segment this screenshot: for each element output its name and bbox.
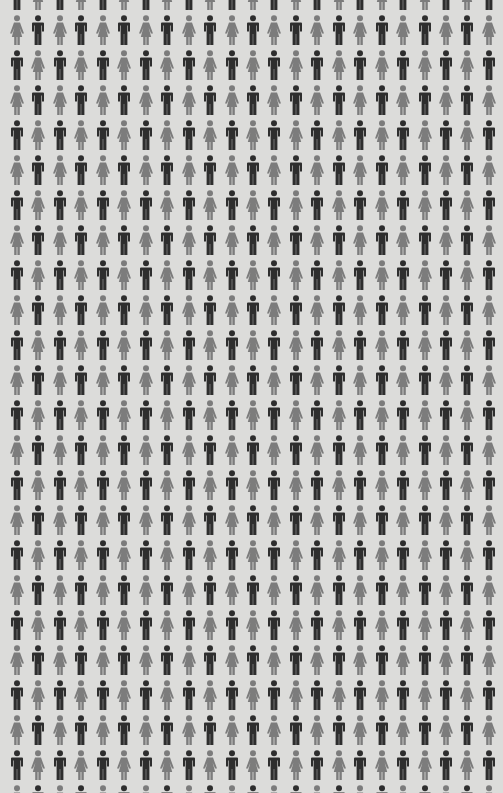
- female-person-icon: [417, 750, 433, 782]
- male-person-icon: [481, 330, 497, 362]
- male-person-icon: [159, 155, 175, 187]
- male-person-icon: [52, 330, 68, 362]
- male-person-icon: [116, 365, 132, 397]
- male-person-icon: [9, 400, 25, 432]
- female-person-icon: [266, 575, 282, 607]
- male-person-icon: [73, 365, 89, 397]
- male-person-icon: [481, 680, 497, 712]
- male-person-icon: [95, 750, 111, 782]
- female-person-icon: [459, 400, 475, 432]
- male-person-icon: [374, 575, 390, 607]
- male-person-icon: [9, 470, 25, 502]
- male-person-icon: [9, 330, 25, 362]
- male-person-icon: [138, 50, 154, 82]
- female-person-icon: [9, 785, 25, 793]
- female-person-icon: [52, 575, 68, 607]
- female-person-icon: [352, 225, 368, 257]
- female-person-icon: [138, 715, 154, 747]
- female-person-icon: [30, 470, 46, 502]
- female-person-icon: [245, 400, 261, 432]
- female-person-icon: [395, 155, 411, 187]
- male-person-icon: [202, 785, 218, 793]
- male-person-icon: [245, 575, 261, 607]
- female-person-icon: [395, 645, 411, 677]
- female-person-icon: [159, 190, 175, 222]
- male-person-icon: [159, 15, 175, 47]
- female-person-icon: [331, 120, 347, 152]
- female-person-icon: [9, 365, 25, 397]
- female-person-icon: [245, 260, 261, 292]
- female-person-icon: [202, 610, 218, 642]
- male-person-icon: [202, 295, 218, 327]
- female-person-icon: [245, 540, 261, 572]
- male-person-icon: [138, 260, 154, 292]
- male-person-icon: [459, 225, 475, 257]
- male-person-icon: [459, 505, 475, 537]
- female-person-icon: [288, 50, 304, 82]
- female-person-icon: [395, 225, 411, 257]
- male-person-icon: [159, 645, 175, 677]
- female-person-icon: [459, 750, 475, 782]
- male-person-icon: [202, 645, 218, 677]
- male-person-icon: [459, 435, 475, 467]
- male-person-icon: [438, 120, 454, 152]
- male-person-icon: [374, 225, 390, 257]
- female-person-icon: [9, 155, 25, 187]
- male-person-icon: [224, 0, 240, 12]
- male-person-icon: [438, 610, 454, 642]
- female-person-icon: [224, 785, 240, 793]
- female-person-icon: [309, 225, 325, 257]
- female-person-icon: [309, 155, 325, 187]
- male-person-icon: [52, 260, 68, 292]
- male-person-icon: [374, 435, 390, 467]
- female-person-icon: [309, 15, 325, 47]
- female-person-icon: [30, 120, 46, 152]
- male-person-icon: [331, 365, 347, 397]
- female-person-icon: [52, 225, 68, 257]
- male-person-icon: [309, 260, 325, 292]
- female-person-icon: [73, 0, 89, 12]
- male-person-icon: [395, 470, 411, 502]
- male-person-icon: [352, 400, 368, 432]
- female-person-icon: [30, 260, 46, 292]
- female-person-icon: [52, 15, 68, 47]
- female-person-icon: [245, 680, 261, 712]
- female-person-icon: [309, 365, 325, 397]
- male-person-icon: [374, 785, 390, 793]
- female-person-icon: [159, 120, 175, 152]
- male-person-icon: [438, 190, 454, 222]
- male-person-icon: [202, 505, 218, 537]
- female-person-icon: [52, 295, 68, 327]
- female-person-icon: [52, 505, 68, 537]
- male-person-icon: [9, 610, 25, 642]
- female-person-icon: [202, 190, 218, 222]
- male-person-icon: [288, 575, 304, 607]
- male-person-icon: [438, 260, 454, 292]
- female-person-icon: [73, 330, 89, 362]
- female-person-icon: [181, 785, 197, 793]
- female-person-icon: [245, 610, 261, 642]
- male-person-icon: [266, 330, 282, 362]
- female-person-icon: [202, 750, 218, 782]
- female-person-icon: [374, 400, 390, 432]
- male-person-icon: [159, 785, 175, 793]
- female-person-icon: [374, 190, 390, 222]
- female-person-icon: [116, 680, 132, 712]
- male-person-icon: [309, 400, 325, 432]
- male-person-icon: [52, 610, 68, 642]
- male-person-icon: [202, 715, 218, 747]
- female-person-icon: [202, 50, 218, 82]
- female-person-icon: [30, 610, 46, 642]
- female-person-icon: [202, 330, 218, 362]
- female-person-icon: [481, 505, 497, 537]
- male-person-icon: [481, 120, 497, 152]
- male-person-icon: [224, 120, 240, 152]
- male-person-icon: [159, 435, 175, 467]
- female-person-icon: [9, 575, 25, 607]
- female-person-icon: [73, 400, 89, 432]
- male-person-icon: [309, 750, 325, 782]
- female-person-icon: [224, 15, 240, 47]
- female-person-icon: [374, 50, 390, 82]
- male-person-icon: [438, 400, 454, 432]
- female-person-icon: [309, 785, 325, 793]
